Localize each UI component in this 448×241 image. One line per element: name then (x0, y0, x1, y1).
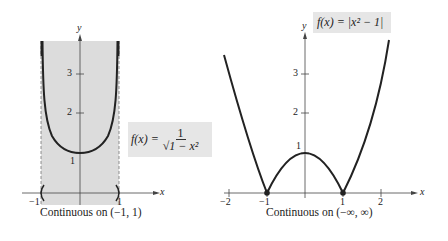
curve-right-left-branch (224, 55, 267, 193)
label-f: f(x) = (131, 132, 159, 147)
x-axis-arrow-icon (153, 191, 160, 195)
x-axis-label: x (160, 186, 164, 197)
y-tick-1: 1 (296, 140, 301, 151)
right-function-label: f(x) = |x² − 1| (313, 12, 391, 33)
y-tick-2: 2 (293, 106, 298, 117)
y-tick-1: 1 (70, 155, 75, 166)
numerator: 1 (176, 127, 186, 140)
y-axis-arrow-icon (78, 34, 82, 41)
y-axis-arrow-icon (303, 32, 307, 39)
y-tick-3: 3 (67, 67, 72, 78)
right-caption: Continuous on (−∞, ∞) (266, 206, 373, 218)
y-axis-label: y (302, 20, 306, 31)
x-tick-neg2: −2 (220, 196, 231, 207)
left-function-label: f(x) = 1 √1 − x² (128, 122, 212, 157)
point-1 (340, 190, 346, 196)
fraction: 1 √1 − x² (163, 127, 199, 153)
right-chart (224, 32, 418, 198)
point-neg1 (264, 190, 270, 196)
y-axis-label: y (77, 22, 81, 33)
denominator: √1 − x² (163, 140, 199, 153)
y-tick-2: 2 (67, 106, 72, 117)
x-axis-arrow-icon (411, 191, 418, 195)
left-chart (22, 34, 160, 205)
curve-right-right-branch (343, 40, 389, 193)
x-tick-2: 2 (378, 196, 383, 207)
x-axis-label: x (420, 186, 424, 197)
x-tick-neg1: −1 (29, 196, 40, 207)
y-tick-3: 3 (293, 67, 298, 78)
left-caption: Continuous on (−1, 1) (40, 206, 142, 218)
